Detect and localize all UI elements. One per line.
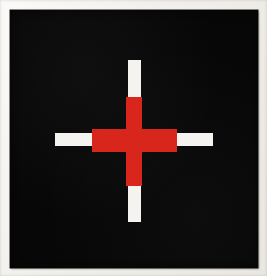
black-panel xyxy=(10,10,258,268)
cross-horizontal-red-bar xyxy=(92,129,177,152)
artwork-canvas xyxy=(0,0,267,276)
